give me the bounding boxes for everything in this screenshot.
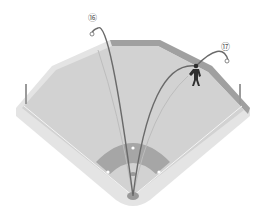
- foul-pole-right: [239, 84, 241, 104]
- trajectory-17-label: ⑰: [221, 42, 230, 52]
- foul-pole-left: [25, 84, 27, 104]
- baseball-field-diagram: ⑯ ⑰: [0, 0, 262, 218]
- first-base: [157, 170, 160, 173]
- trajectory-17-ball: [225, 59, 229, 63]
- trajectory-16-ball: [90, 32, 94, 36]
- third-base: [106, 170, 109, 173]
- trajectory-16-label: ⑯: [88, 13, 97, 23]
- second-base: [131, 146, 134, 149]
